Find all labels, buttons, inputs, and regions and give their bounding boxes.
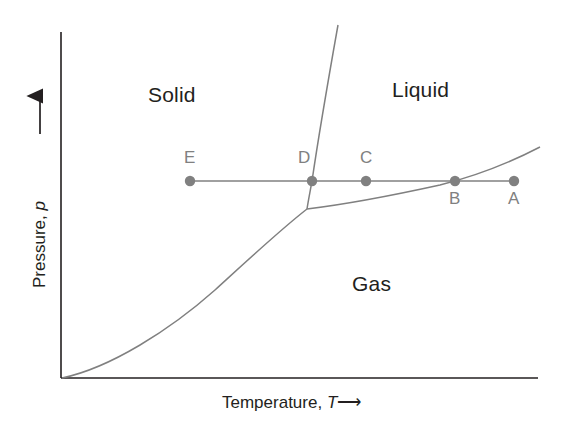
data-point-a [509, 176, 519, 186]
y-axis-title-text: Pressure, [30, 211, 49, 288]
region-label-solid: Solid [148, 83, 196, 107]
x-axis-title-symbol: T [327, 393, 337, 412]
phase-diagram-figure: Solid Liquid Gas E D C B A Pressure, p T… [0, 0, 565, 435]
data-point-e [185, 176, 195, 186]
region-label-gas: Gas [352, 272, 391, 296]
point-label-e: E [184, 148, 195, 168]
data-point-d [307, 176, 317, 186]
point-label-b: B [449, 189, 460, 209]
y-axis-title-symbol: p [30, 201, 49, 210]
point-label-a: A [508, 189, 519, 209]
x-axis-title: Temperature, T⟶ [222, 392, 359, 413]
y-axis-title: Pressure, p [30, 201, 50, 288]
sublimation-curve [62, 209, 307, 378]
phase-diagram-canvas [0, 0, 565, 435]
data-point-b [450, 176, 460, 186]
x-axis-arrow-icon: ⟶ [337, 392, 359, 413]
point-label-d: D [298, 148, 310, 168]
vaporization-curve [307, 147, 540, 209]
region-label-liquid: Liquid [392, 78, 449, 102]
x-axis-title-text: Temperature, [222, 393, 327, 412]
data-point-c [361, 176, 371, 186]
point-label-c: C [360, 148, 372, 168]
